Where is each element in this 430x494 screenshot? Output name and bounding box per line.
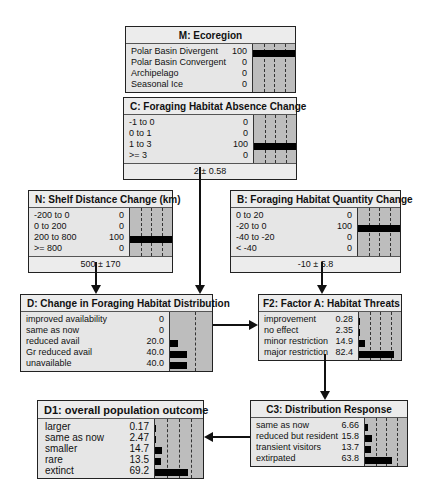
state-row: no effect2.35 bbox=[264, 325, 355, 336]
node-title: D1: overall population outcome bbox=[38, 401, 203, 419]
edge-c-to-d bbox=[199, 167, 201, 285]
state-row: reduced but resident15.8 bbox=[256, 431, 361, 442]
belief-bar bbox=[155, 447, 162, 454]
state-row: 0 to 2000 bbox=[34, 221, 126, 232]
gridline bbox=[195, 312, 196, 371]
state-row: -200 to 00 bbox=[34, 210, 126, 221]
arrowhead-icon bbox=[195, 285, 205, 294]
node-ecoregion[interactable]: M: Ecoregion Polar Basin Divergent100 Po… bbox=[125, 26, 296, 93]
caption-cropped bbox=[40, 488, 400, 494]
state-row: smaller14.7 bbox=[45, 443, 151, 454]
node-foraging-habitat-absence-change[interactable]: C: Foraging Habitat Absence Change -1 to… bbox=[123, 97, 297, 180]
belief-bar bbox=[170, 351, 187, 358]
belief-bar bbox=[155, 436, 156, 443]
belief-bar bbox=[130, 236, 172, 243]
state-row: minor restriction14.9 bbox=[264, 336, 355, 347]
belief-bars bbox=[364, 418, 407, 466]
belief-bar bbox=[359, 318, 360, 325]
state-row: transient visitors13.7 bbox=[256, 442, 361, 453]
belief-bars bbox=[357, 208, 400, 256]
gridline bbox=[369, 208, 370, 256]
state-row: Archipelago0 bbox=[131, 68, 249, 79]
gridline bbox=[390, 208, 391, 256]
belief-bar bbox=[365, 435, 372, 442]
arrowhead-icon bbox=[317, 285, 327, 294]
state-row: 0 to 10 bbox=[129, 128, 250, 139]
state-row: extirpated63.8 bbox=[256, 453, 361, 464]
belief-bar bbox=[365, 446, 371, 453]
belief-bar bbox=[155, 469, 188, 476]
node-habitat-threats[interactable]: F2: Factor A: Habitat Threats improvemen… bbox=[258, 294, 402, 361]
belief-bar bbox=[254, 143, 296, 150]
node-title: N: Shelf Distance Change (km) bbox=[29, 191, 172, 208]
node-shelf-distance-change[interactable]: N: Shelf Distance Change (km) -200 to 00… bbox=[28, 190, 173, 273]
state-row: major restriction82.4 bbox=[264, 347, 355, 358]
state-row: unavailable40.0 bbox=[26, 358, 166, 369]
arrowhead-icon bbox=[320, 391, 330, 400]
state-row: rare13.5 bbox=[45, 454, 151, 465]
state-row: larger0.17 bbox=[45, 421, 151, 432]
edge-d-to-f2 bbox=[213, 324, 249, 326]
state-row: Polar Basin Divergent100 bbox=[131, 46, 249, 57]
node-change-in-foraging-habitat-distribution[interactable]: D: Change in Foraging Habitat Distributi… bbox=[20, 294, 213, 372]
belief-bar bbox=[170, 340, 178, 347]
state-row: 0 to 200 bbox=[236, 210, 354, 221]
belief-bar bbox=[359, 329, 360, 336]
state-row: improvement0.28 bbox=[264, 314, 355, 325]
state-row: Gr reduced avail40.0 bbox=[26, 347, 166, 358]
node-title: M: Ecoregion bbox=[126, 27, 295, 44]
arrowhead-icon bbox=[249, 320, 258, 330]
state-row: -20 to 0100 bbox=[236, 221, 354, 232]
state-row: < -400 bbox=[236, 243, 354, 254]
belief-bars bbox=[358, 312, 401, 360]
node-distribution-response[interactable]: C3: Distribution Response same as now6.6… bbox=[250, 400, 408, 467]
belief-bar bbox=[365, 457, 392, 464]
node-title: C3: Distribution Response bbox=[251, 401, 407, 418]
state-row: reduced avail20.0 bbox=[26, 336, 166, 347]
edge-n-to-d bbox=[95, 262, 97, 285]
belief-bars bbox=[154, 419, 203, 478]
expected-value: 2 ± 0.58 bbox=[124, 163, 296, 179]
node-title: D: Change in Foraging Habitat Distributi… bbox=[21, 295, 212, 312]
gridline bbox=[141, 208, 142, 256]
node-title: C: Foraging Habitat Absence Change bbox=[124, 98, 296, 115]
edge-c3-to-d1 bbox=[213, 436, 250, 438]
state-row: Polar Basin Convergent0 bbox=[131, 57, 249, 68]
state-row: extinct69.2 bbox=[45, 465, 151, 476]
belief-bar bbox=[155, 458, 161, 465]
edge-f2-to-c3 bbox=[324, 354, 326, 391]
state-row: -1 to 00 bbox=[129, 117, 250, 128]
state-row: same as now6.66 bbox=[256, 420, 361, 431]
gridline bbox=[397, 418, 398, 466]
node-title: B: Foraging Habitat Quantity Change bbox=[231, 191, 400, 208]
state-row: 1 to 3100 bbox=[129, 139, 250, 150]
belief-bar bbox=[359, 340, 365, 347]
edge-b-to-f2 bbox=[321, 262, 323, 285]
state-row: -40 to -200 bbox=[236, 232, 354, 243]
belief-bar bbox=[170, 362, 187, 369]
expected-value: -10 ± 5.8 bbox=[231, 256, 400, 272]
belief-bar bbox=[359, 351, 394, 358]
gridline bbox=[151, 208, 152, 256]
belief-bar bbox=[253, 50, 295, 57]
gridline bbox=[191, 419, 192, 478]
node-overall-population-outcome[interactable]: D1: overall population outcome larger0.1… bbox=[37, 400, 204, 479]
gridline bbox=[265, 115, 266, 163]
arrowhead-icon bbox=[91, 285, 101, 294]
state-row: >= 30 bbox=[129, 150, 250, 161]
gridline bbox=[275, 115, 276, 163]
belief-bars bbox=[252, 44, 295, 92]
state-row: Seasonal Ice0 bbox=[131, 79, 249, 90]
node-title: F2: Factor A: Habitat Threats bbox=[259, 295, 401, 312]
state-row: 200 to 800100 bbox=[34, 232, 126, 243]
state-row: >= 8000 bbox=[34, 243, 126, 254]
expected-value: 500 ± 170 bbox=[29, 256, 172, 272]
state-row: improved availability0 bbox=[26, 314, 166, 325]
gridline bbox=[379, 208, 380, 256]
belief-bar bbox=[155, 425, 156, 432]
belief-bar bbox=[358, 225, 400, 232]
arrowhead-icon bbox=[204, 432, 213, 442]
belief-bars bbox=[253, 115, 296, 163]
belief-bars bbox=[169, 312, 212, 371]
node-foraging-habitat-quantity-change[interactable]: B: Foraging Habitat Quantity Change 0 to… bbox=[230, 190, 401, 273]
